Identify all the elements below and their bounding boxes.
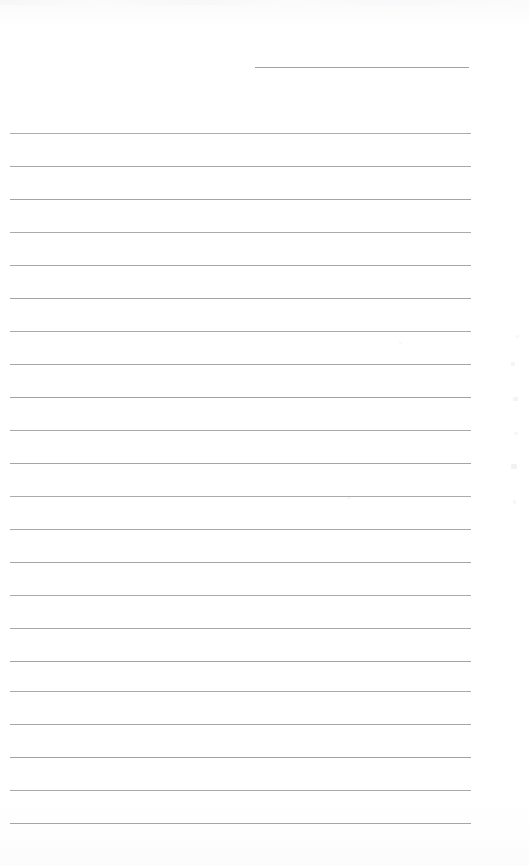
scanned-paper-page: [0, 0, 529, 866]
top-edge-scan-smudge: [0, 0, 529, 5]
writing-area[interactable]: [10, 100, 471, 840]
scan-speckle: [516, 335, 519, 338]
scan-speckle: [513, 397, 518, 401]
scan-speckle: [511, 362, 515, 366]
scan-speckle: [511, 464, 517, 469]
header-rule: [255, 67, 469, 68]
scan-speckle: [514, 432, 518, 435]
scan-speckle: [513, 500, 516, 504]
